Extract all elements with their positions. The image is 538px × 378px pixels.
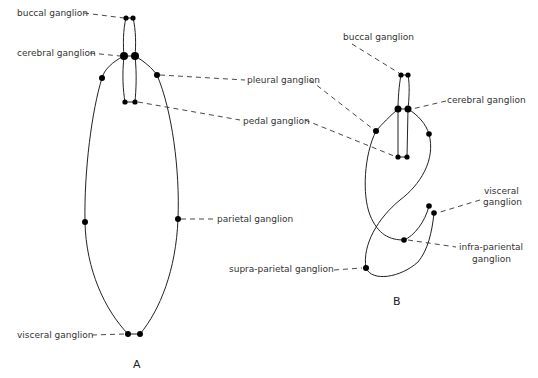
label-cerebral-a: cerebral ganglion (17, 48, 96, 58)
leader-infra-b (408, 240, 456, 247)
parietal-ganglion-right (175, 216, 181, 222)
visceral-ganglion-left (125, 331, 131, 337)
buccal-connective-right (133, 18, 136, 56)
label-pleural-a: pleural ganglion (247, 75, 320, 85)
buccal-ganglion-left-b (398, 72, 403, 77)
leader-supra-b (334, 268, 362, 270)
label-visceral-a: visceral ganglion (17, 330, 93, 340)
visceral-ganglion-b-1 (426, 203, 432, 209)
leader-buccal-a (84, 13, 124, 18)
visceral-loop-b-2 (365, 109, 434, 277)
supra-parietal-ganglion-b (363, 265, 369, 271)
label-visceral-b-1: visceral (484, 186, 519, 196)
buccal-ganglion-left (123, 15, 128, 20)
label-visceral-b-2: ganglion (483, 197, 522, 207)
label-buccal-a: buccal ganglion (17, 8, 88, 18)
buccal-connective-right-b (408, 75, 409, 109)
cerebral-ganglion-right-b (405, 106, 412, 113)
pleural-ganglion-left-b (373, 128, 379, 134)
visceral-ganglion-right (137, 331, 143, 337)
pedal-connective-left (123, 56, 125, 102)
leader-cerebral-b (412, 101, 446, 109)
visceral-loop-right (135, 56, 178, 334)
label-infra-b-2: ganglion (472, 254, 511, 264)
pleural-ganglion-right (154, 72, 160, 78)
leader-pleural-b (310, 80, 373, 129)
buccal-connective-left (123, 18, 126, 56)
cerebral-ganglion-left-b (395, 106, 402, 113)
visceral-loop-left (85, 56, 128, 334)
leader-visceral-b (437, 200, 480, 213)
pedal-ganglion-right-b (404, 154, 409, 159)
pedal-ganglion-left-b (395, 154, 400, 159)
panel-b: buccal ganglion cerebral ganglion viscer… (229, 32, 526, 308)
buccal-ganglion-right-b (405, 72, 410, 77)
visceral-ganglion-b-2 (431, 210, 437, 216)
panel-a: buccal ganglion cerebral ganglion pleura… (17, 8, 320, 371)
pedal-ganglion-left (122, 99, 127, 104)
leader-pleural-a (160, 75, 245, 80)
leader-buccal-b (352, 44, 399, 73)
label-cerebral-b: cerebral ganglion (447, 95, 526, 105)
pedal-ganglion-right (132, 99, 137, 104)
pleural-ganglion-left (99, 75, 105, 81)
cerebral-ganglion-left (120, 52, 128, 60)
buccal-connective-left-b (398, 75, 401, 109)
panel-b-caption: B (393, 295, 401, 308)
cerebral-ganglion-right (131, 52, 139, 60)
label-buccal-b: buccal ganglion (343, 32, 414, 42)
label-parietal-a: parietal ganglion (217, 214, 293, 224)
label-infra-b-1: infra-pariental (459, 242, 523, 252)
parietal-ganglion-left (82, 219, 88, 225)
pleural-ganglion-right-b (426, 131, 432, 137)
infra-parietal-ganglion-b (401, 237, 407, 243)
leader-visceral-a (92, 334, 125, 335)
label-supra-b: supra-parietal ganglion (229, 264, 334, 274)
leader-pedal-a (138, 102, 240, 120)
nervous-system-diagram: buccal ganglion cerebral ganglion pleura… (0, 0, 538, 378)
label-pedal-a: pedal ganglion (243, 116, 310, 126)
pedal-connective-right (135, 56, 136, 102)
buccal-ganglion-right (130, 15, 135, 20)
panel-a-caption: A (133, 358, 141, 371)
pedal-connective-right-b (407, 109, 408, 157)
